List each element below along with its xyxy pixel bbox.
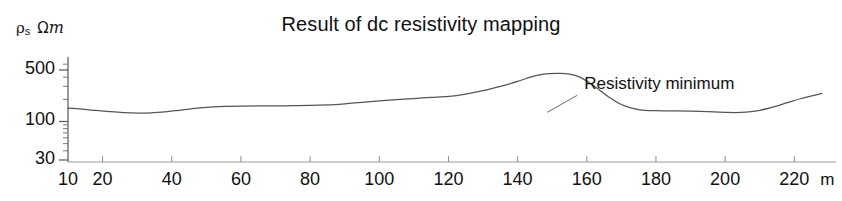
x-tick-label: 200 [685,169,765,190]
axes [59,57,836,162]
y-tick-label: 100 [0,109,55,130]
y-tick-label: 500 [0,58,55,79]
resistivity-minimum-annotation: Resistivity minimum [584,74,734,94]
x-tick-label: 160 [547,169,627,190]
x-tick-label: 180 [616,169,696,190]
y-tick-label: 30 [0,148,55,169]
x-tick-label: 60 [201,169,281,190]
x-tick-label: 40 [132,169,212,190]
annotation-leaders [547,95,577,112]
x-axis-unit-label: m [820,170,834,190]
x-tick-label: 100 [339,169,419,190]
x-tick-label: 20 [63,169,143,190]
annotation-leader-line [547,95,577,112]
x-tick-label: 80 [270,169,350,190]
chart-figure: ρsΩm Result of dc resistivity mapping 50… [0,0,842,201]
x-tick-label: 140 [478,169,558,190]
x-tick-label: 120 [408,169,488,190]
